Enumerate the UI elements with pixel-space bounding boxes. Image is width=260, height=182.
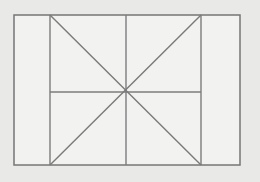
- rectangle-interior-fill: [14, 15, 240, 165]
- line-drawing-svg: [0, 0, 260, 182]
- figure-canvas: [0, 0, 260, 182]
